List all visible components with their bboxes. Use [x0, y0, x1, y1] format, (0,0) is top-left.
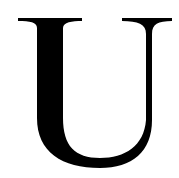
- letter-u-image: U: [0, 0, 179, 178]
- letter-u-glyph: [0, 0, 179, 178]
